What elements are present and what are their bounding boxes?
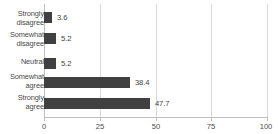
x-tick-label-75: 75 [196,122,226,132]
x-tick-mark-100 [267,117,268,121]
bar-somewhat-agree[interactable] [44,77,130,88]
bar-value-strongly-disagree: 3.6 [57,12,67,23]
x-tick-label-50: 50 [141,122,171,132]
bar-value-somewhat-agree: 38.4 [135,77,149,88]
x-tick-mark-75 [211,117,212,121]
bar-neutral[interactable] [44,58,56,69]
category-label-line2: disagree [4,40,44,49]
bar-value-strongly-agree: 47.7 [155,98,169,109]
bar-value-neutral: 5.2 [61,58,71,69]
category-label-somewhat-disagree: Somewhat disagree [4,31,44,48]
x-tick-label-0: 0 [29,122,59,132]
bar-somewhat-disagree[interactable] [44,33,56,44]
category-label-line2: agree [4,82,44,91]
category-label-somewhat-agree: Somewhat agree [4,73,44,90]
x-tick-mark-50 [156,117,157,121]
bar-strongly-agree[interactable] [44,98,150,109]
bar-row-somewhat-agree: Somewhat agree 38.4 [0,73,278,95]
bar-row-strongly-disagree: Strongly disagree 3.6 [0,10,278,32]
x-tick-mark-25 [100,117,101,121]
category-label-neutral: Neutral [4,52,44,67]
x-tick-label-100: 100 [251,122,278,132]
category-label-line1: Neutral [4,58,44,67]
x-tick-mark-0 [44,117,45,121]
horizontal-bar-chart: Strongly disagree 3.6 Somewhat disagree … [0,0,278,134]
category-label-strongly-disagree: Strongly disagree [4,10,44,27]
bar-row-neutral: Neutral 5.2 [0,52,278,74]
category-label-line2: agree [4,103,44,112]
category-label-line2: disagree [4,19,44,28]
x-tick-label-25: 25 [85,122,115,132]
bar-row-somewhat-disagree: Somewhat disagree 5.2 [0,31,278,53]
category-label-strongly-agree: Strongly agree [4,94,44,111]
bar-value-somewhat-disagree: 5.2 [61,33,71,44]
bar-row-strongly-agree: Strongly agree 47.7 [0,94,278,116]
bar-strongly-disagree[interactable] [44,12,52,23]
